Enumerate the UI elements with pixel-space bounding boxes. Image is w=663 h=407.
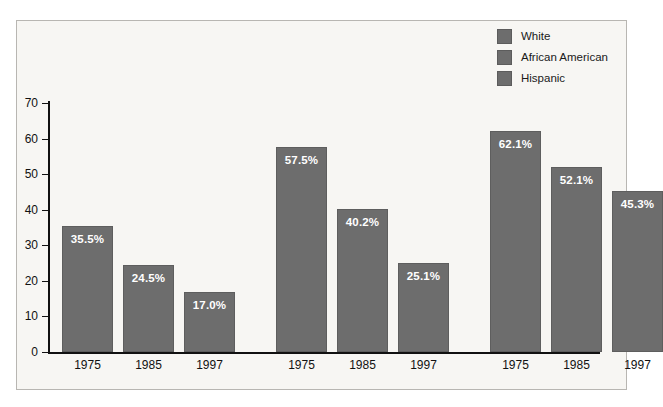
x-axis-tick-label: 1997 bbox=[612, 358, 663, 372]
legend-item-label: African American bbox=[521, 51, 608, 64]
bar: 57.5% bbox=[276, 147, 327, 352]
x-axis-tick-label: 1997 bbox=[398, 358, 449, 372]
y-axis-tick-label: 0 bbox=[8, 346, 38, 358]
legend-swatch-icon bbox=[497, 50, 512, 65]
chart-legend: WhiteAfrican AmericanHispanic bbox=[497, 27, 627, 90]
y-axis-tick bbox=[42, 352, 50, 353]
bar-value-label: 24.5% bbox=[124, 272, 173, 284]
x-axis-tick-label: 1975 bbox=[276, 358, 327, 372]
bar: 17.0% bbox=[184, 292, 235, 352]
bar-value-label: 35.5% bbox=[63, 233, 112, 245]
x-axis-tick-label: 1975 bbox=[62, 358, 113, 372]
bar: 52.1% bbox=[551, 167, 602, 352]
legend-item[interactable]: Hispanic bbox=[497, 69, 627, 88]
y-axis-tick-label: 30 bbox=[8, 239, 38, 251]
bar-value-label: 57.5% bbox=[277, 154, 326, 166]
legend-swatch-icon bbox=[497, 71, 512, 86]
x-axis-tick-label: 1985 bbox=[337, 358, 388, 372]
y-axis-tick-label: 10 bbox=[8, 310, 38, 322]
y-axis-tick-label: 50 bbox=[8, 168, 38, 180]
y-axis-tick-label: 40 bbox=[8, 204, 38, 216]
x-axis-tick-label: 1985 bbox=[123, 358, 174, 372]
bar-value-label: 25.1% bbox=[399, 270, 448, 282]
legend-item[interactable]: African American bbox=[497, 48, 627, 67]
bar: 24.5% bbox=[123, 265, 174, 352]
bar-value-label: 52.1% bbox=[552, 174, 601, 186]
legend-swatch-icon bbox=[497, 29, 512, 44]
bar: 62.1% bbox=[490, 131, 541, 352]
y-axis-tick-label: 70 bbox=[8, 97, 38, 109]
bar-value-label: 40.2% bbox=[338, 216, 387, 228]
x-axis-tick-label: 1985 bbox=[551, 358, 602, 372]
x-axis-line bbox=[48, 352, 600, 354]
y-axis-tick-label: 60 bbox=[8, 133, 38, 145]
bar: 35.5% bbox=[62, 226, 113, 352]
bar-value-label: 17.0% bbox=[185, 299, 234, 311]
bar: 25.1% bbox=[398, 263, 449, 352]
bar: 45.3% bbox=[612, 191, 663, 352]
x-axis-tick-label: 1997 bbox=[184, 358, 235, 372]
x-axis-tick-label: 1975 bbox=[490, 358, 541, 372]
bar-value-label: 45.3% bbox=[613, 198, 662, 210]
legend-item-label: Hispanic bbox=[521, 72, 565, 85]
bar: 40.2% bbox=[337, 209, 388, 352]
legend-item-label: White bbox=[521, 30, 550, 43]
legend-item[interactable]: White bbox=[497, 27, 627, 46]
bar-value-label: 62.1% bbox=[491, 138, 540, 150]
y-axis-tick-label: 20 bbox=[8, 275, 38, 287]
